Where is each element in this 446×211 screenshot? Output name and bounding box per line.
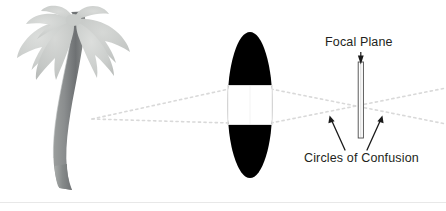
focal-plane-label: Focal Plane xyxy=(325,35,393,49)
ray-in-lower xyxy=(92,119,229,123)
lens-aperture-icon xyxy=(226,32,274,178)
circles-of-confusion-arrows xyxy=(328,116,383,151)
arrow-up-right-icon xyxy=(377,116,383,124)
focal-plane-bar-icon xyxy=(358,62,363,138)
optical-diagram-svg xyxy=(0,0,446,211)
arrow-up-left-icon xyxy=(328,116,334,124)
palm-tree-icon xyxy=(17,6,130,190)
arrow-up-left-shaft xyxy=(331,119,345,150)
circles-of-confusion-label: Circles of Confusion xyxy=(304,151,419,165)
arrow-up-right-shaft xyxy=(367,119,381,150)
ray-in-upper xyxy=(92,89,229,119)
diagram-canvas: Focal Plane Circles of Confusion xyxy=(0,0,446,211)
trunk-base xyxy=(55,164,72,190)
frond-crown xyxy=(66,14,82,26)
